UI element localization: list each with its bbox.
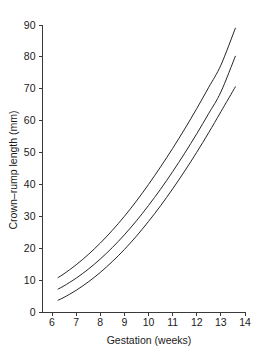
y-tick-label: 40 xyxy=(24,178,36,190)
y-tick-label: 60 xyxy=(24,114,36,126)
x-tick-label: 7 xyxy=(73,316,79,328)
x-tick-label: 14 xyxy=(239,316,251,328)
y-tick-label: 70 xyxy=(24,82,36,94)
y-tick-label: 80 xyxy=(24,50,36,62)
x-tick-label: 10 xyxy=(143,316,155,328)
x-tick-label: 13 xyxy=(215,316,227,328)
x-tick-label: 8 xyxy=(97,316,103,328)
x-tick-label: 12 xyxy=(191,316,203,328)
x-tick-label: 11 xyxy=(167,316,178,328)
y-tick-label: 10 xyxy=(24,274,36,286)
x-tick-label: 6 xyxy=(49,316,55,328)
y-axis-title: Crown–rump length (mm) xyxy=(7,110,19,229)
crown-rump-length-growth-chart: 0102030405060708090 67891011121314 Gesta… xyxy=(0,0,267,350)
y-tick-label: 0 xyxy=(30,306,36,318)
y-tick-label: 50 xyxy=(24,146,36,158)
y-tick-label: 90 xyxy=(24,19,36,31)
chart-background xyxy=(0,0,267,350)
x-tick-label: 9 xyxy=(121,316,127,328)
y-tick-label: 30 xyxy=(24,210,36,222)
x-axis-title: Gestation (weeks) xyxy=(107,334,192,346)
chart-container: 0102030405060708090 67891011121314 Gesta… xyxy=(0,0,267,350)
y-tick-label: 20 xyxy=(24,242,36,254)
